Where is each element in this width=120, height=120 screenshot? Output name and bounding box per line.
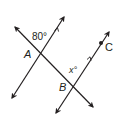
angle-x-label: x°	[69, 66, 77, 75]
geometry-diagram: 80° A x° B C	[0, 0, 120, 120]
transversal-line	[15, 27, 93, 107]
point-c-dot	[99, 41, 103, 45]
angle-80-label: 80°	[32, 32, 47, 42]
diagram-canvas	[0, 0, 120, 120]
point-b-label: B	[59, 82, 66, 93]
parallel-marker-icon	[87, 57, 91, 61]
point-a-label: A	[24, 49, 31, 60]
point-c-label: C	[105, 42, 113, 53]
